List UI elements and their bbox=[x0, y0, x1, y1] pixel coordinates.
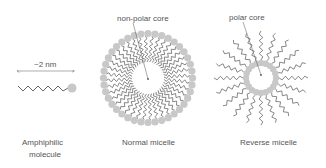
hydrophobic-tail bbox=[144, 36, 148, 62]
hydrophobic-tail bbox=[106, 78, 132, 82]
hydrophobic-tail bbox=[272, 93, 289, 116]
non-polar-core-point bbox=[147, 78, 149, 80]
polar-head bbox=[188, 67, 195, 74]
hydrophobic-tail bbox=[246, 95, 255, 123]
polar-head bbox=[124, 114, 131, 121]
polar-head bbox=[171, 110, 178, 117]
hydrophobic-tail bbox=[164, 74, 190, 78]
amphiphile-caption-line1: Amphiphilic bbox=[22, 138, 63, 148]
polar-head bbox=[105, 95, 112, 102]
hydrophobic-tail bbox=[223, 89, 246, 106]
reverse-micelle-caption: Reverse micelle bbox=[240, 138, 297, 148]
hydrophobic-tail bbox=[148, 94, 152, 120]
hydrophobic-tail bbox=[267, 33, 276, 61]
hydrophobic-tail bbox=[278, 63, 306, 73]
hydrophobic-tail bbox=[127, 42, 140, 64]
polar-head bbox=[68, 84, 77, 93]
amphiphile-caption-line2: molecule bbox=[29, 150, 61, 160]
polar-head bbox=[137, 118, 144, 125]
polar-head bbox=[151, 30, 158, 37]
polar-head bbox=[131, 32, 138, 39]
polar-head bbox=[100, 81, 107, 88]
hydrophobic-tail bbox=[18, 86, 68, 91]
non-polar-core-label: non-polar core bbox=[117, 14, 169, 24]
polar-head bbox=[158, 117, 165, 124]
hydrophobic-tail bbox=[279, 76, 308, 80]
polar-head bbox=[188, 81, 195, 88]
normal-micelle bbox=[100, 30, 196, 126]
normal-micelle-caption: Normal micelle bbox=[122, 138, 175, 148]
hydrophobic-tail bbox=[278, 84, 306, 93]
scale-label: ~2 nm bbox=[34, 60, 56, 70]
polar-head bbox=[184, 95, 191, 102]
polar-head bbox=[180, 48, 187, 55]
polar-core-point bbox=[260, 74, 262, 76]
polar-head bbox=[187, 61, 194, 68]
polar-head bbox=[131, 117, 138, 124]
hydrophobic-tail bbox=[156, 92, 169, 114]
polar-head bbox=[100, 74, 107, 81]
polar-head bbox=[102, 61, 109, 68]
hydrophobic-tail bbox=[216, 63, 244, 72]
polar-head bbox=[144, 119, 151, 126]
hydrophobic-tail bbox=[216, 83, 244, 93]
hydrophobic-tail bbox=[259, 96, 263, 125]
polar-head bbox=[118, 38, 125, 45]
polar-head bbox=[187, 88, 194, 95]
hydrophobic-tail bbox=[162, 57, 184, 70]
hydrophobic-tail bbox=[214, 76, 243, 80]
polar-head bbox=[151, 118, 158, 125]
polar-head bbox=[165, 35, 172, 42]
hydrophobic-tail bbox=[276, 89, 299, 106]
hydrophobic-tail bbox=[272, 40, 289, 63]
hydrophobic-tail bbox=[233, 40, 250, 63]
hydrophobic-tail bbox=[112, 86, 134, 99]
hydrophobic-tail bbox=[233, 93, 250, 116]
polar-head bbox=[137, 30, 144, 37]
polar-head bbox=[165, 114, 172, 121]
hydrophobic-tail bbox=[223, 50, 246, 67]
polar-head bbox=[108, 101, 115, 108]
polar-core-label: polar core bbox=[229, 13, 265, 23]
polar-head bbox=[124, 35, 131, 42]
polar-head bbox=[144, 30, 151, 37]
polar-head bbox=[189, 74, 196, 81]
polar-head bbox=[102, 88, 109, 95]
hydrophobic-tail bbox=[266, 95, 276, 123]
polar-head bbox=[105, 54, 112, 61]
polar-head bbox=[158, 32, 165, 39]
reverse-micelle bbox=[214, 31, 308, 125]
polar-head bbox=[184, 54, 191, 61]
hydrophobic-tail bbox=[259, 31, 263, 60]
amphiphile-panel bbox=[17, 71, 77, 93]
polar-head bbox=[100, 67, 107, 74]
hydrophobic-tail bbox=[276, 50, 299, 67]
polar-head bbox=[272, 70, 278, 76]
